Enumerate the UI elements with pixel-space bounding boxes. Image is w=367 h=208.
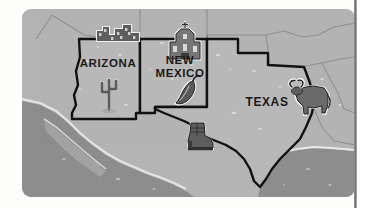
state-label-arizona: ARIZONA bbox=[80, 57, 137, 69]
map-illustration: ARIZONA NEW MEXICO TEXAS bbox=[22, 9, 355, 197]
page-canvas: ARIZONA NEW MEXICO TEXAS bbox=[0, 0, 367, 208]
state-label-new-mexico-line1: NEW bbox=[166, 54, 195, 66]
state-shape-arizona[interactable] bbox=[72, 39, 140, 119]
page-right-gutter bbox=[357, 0, 367, 208]
state-label-new-mexico-line2: MEXICO bbox=[156, 67, 205, 79]
southwest-map-panel[interactable]: ARIZONA NEW MEXICO TEXAS bbox=[22, 9, 355, 197]
state-label-texas: TEXAS bbox=[245, 95, 288, 109]
